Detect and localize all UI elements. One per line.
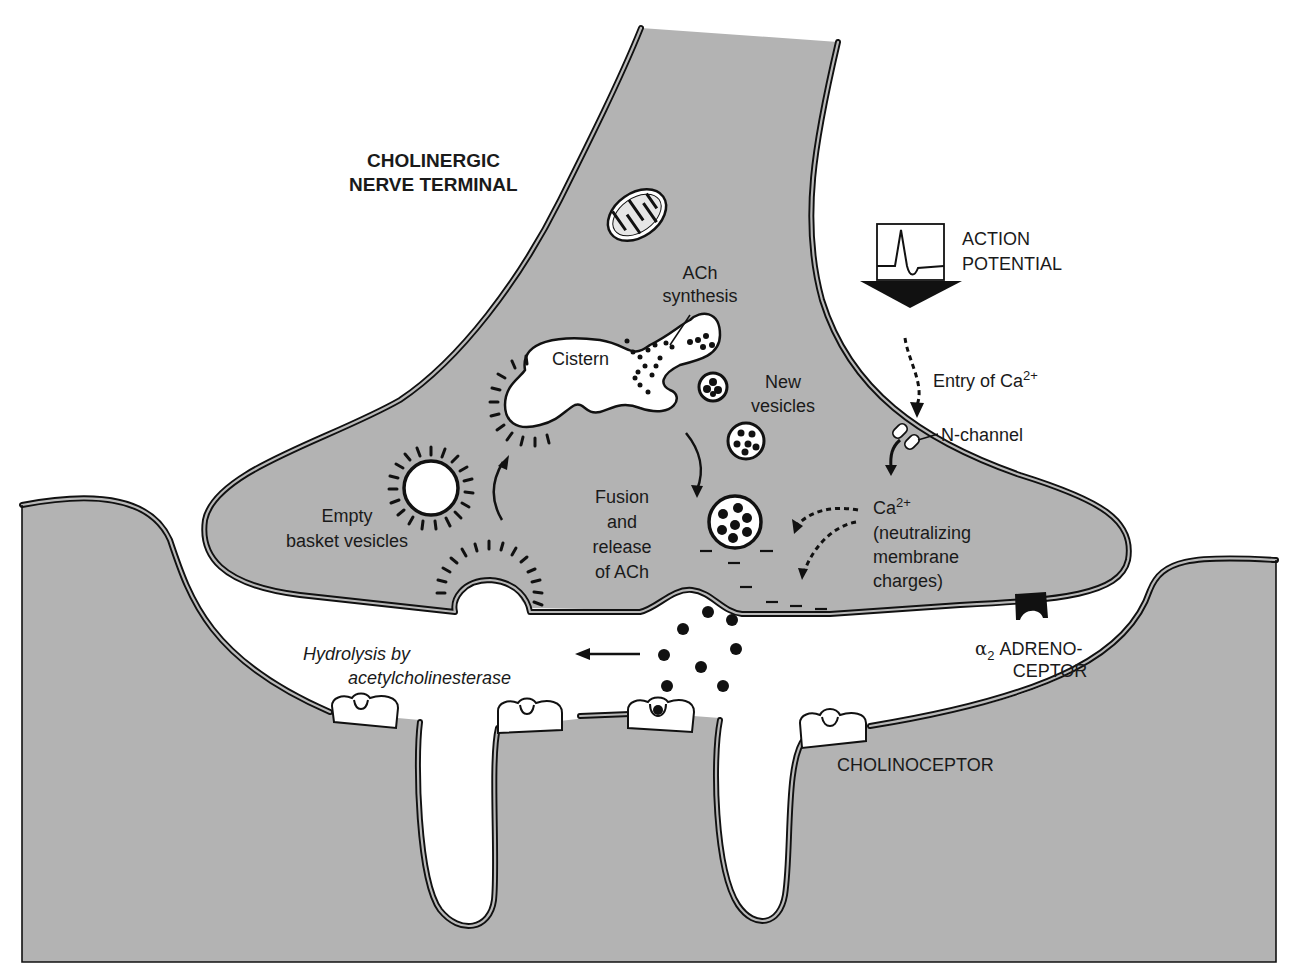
action-potential-label-1: ACTION [962, 229, 1030, 249]
down-arrow-icon [860, 281, 962, 308]
fusion-label-2: and [607, 512, 637, 532]
ca-influx-arrow-icon [905, 338, 924, 418]
fusion-label-4: of ACh [595, 562, 649, 582]
terminal-title-line1: CHOLINERGIC [367, 150, 500, 171]
action-potential-label-2: POTENTIAL [962, 254, 1062, 274]
hydrolysis-label-1: Hydrolysis by [303, 644, 411, 664]
ach-synthesis-label-1: ACh [682, 263, 717, 283]
hydrolysis-label-2: acetylcholinesterase [348, 668, 511, 688]
empty-basket-label-2: basket vesicles [286, 531, 408, 551]
docking-vesicle [709, 496, 761, 548]
cholinoceptor-icon [332, 694, 398, 729]
new-vesicle-medium [728, 423, 764, 459]
empty-basket-label-1: Empty [321, 506, 372, 526]
ach-molecules [658, 606, 742, 692]
entry-of-ca-label: Entry of Ca2+ [933, 368, 1038, 391]
ca-neutralizing-label-3: membrane [873, 547, 959, 567]
n-channel-label: N-channel [941, 425, 1023, 445]
ach-synthesis-label-2: synthesis [662, 286, 737, 306]
cholinoceptor-label: CHOLINOCEPTOR [837, 755, 994, 775]
fusion-label-3: release [592, 537, 651, 557]
terminal-title-line2: NERVE TERMINAL [349, 174, 518, 195]
ca-neutralizing-label-4: charges) [873, 571, 943, 591]
cholinoceptor-bound-icon [628, 698, 694, 733]
nerve-terminal [204, 28, 1129, 614]
cistern-label: Cistern [552, 349, 609, 369]
new-vesicles-label-1: New [765, 372, 802, 392]
hydrolysis-arrow-icon [575, 648, 640, 660]
alpha2-adrenoceptor-icon [1015, 592, 1048, 620]
alpha2-adrenoceptor-label-1: α2 ADRENO- [975, 638, 1082, 663]
new-vesicles-label-2: vesicles [751, 396, 815, 416]
action-potential-waveform-icon [877, 224, 944, 280]
cholinoceptor-icon [498, 699, 562, 734]
new-vesicle-small [699, 373, 727, 401]
cholinergic-synapse-diagram: CHOLINERGIC NERVE TERMINAL ACTION POTENT… [0, 0, 1290, 976]
ca-neutralizing-label-2: (neutralizing [873, 523, 971, 543]
fusion-label-1: Fusion [595, 487, 649, 507]
alpha2-adrenoceptor-label-2: CEPTOR [1013, 661, 1088, 681]
cholinoceptor-icon [800, 709, 866, 748]
